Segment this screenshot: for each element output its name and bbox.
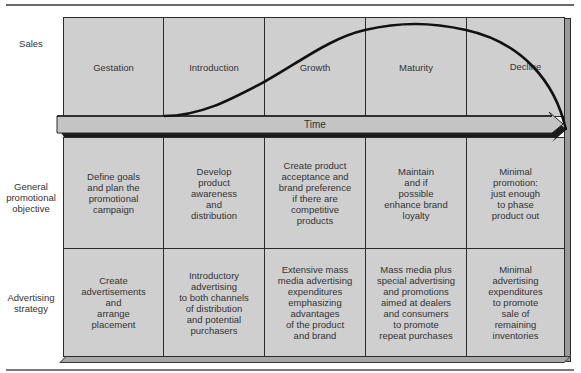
strategy-text: Mass media plus special advertising and … [377, 264, 455, 341]
strategy-cell-decline: Minimal advertising expenditures to prom… [466, 248, 565, 357]
sales-cell-growth: Growth [264, 17, 366, 117]
sales-cell-gestation: Gestation [63, 17, 164, 117]
sales-cell-introduction: Introduction [163, 17, 265, 117]
grid-3d-bottom [59, 356, 571, 363]
strategy-cell-gestation: Create advertisements and arrange placem… [63, 248, 164, 357]
strategy-text: Introductory advertising to both channel… [179, 270, 249, 336]
sales-cell-decline: Decline [466, 17, 565, 117]
objective-text: Maintain and if possible enhance brand l… [384, 166, 447, 221]
strategy-cell-growth: Extensive mass media advertising expendi… [264, 248, 366, 357]
objective-text: Minimal promotion: just enough to phase … [491, 166, 540, 221]
objective-text: Create product acceptance and brand pref… [279, 160, 351, 226]
objective-cell-introduction: Develop product awareness and distributi… [163, 137, 265, 249]
objective-cell-growth: Create product acceptance and brand pref… [264, 137, 366, 249]
strategy-cell-maturity: Mass media plus special advertising and … [365, 248, 467, 357]
stage-label: Growth [300, 62, 331, 73]
strategy-text: Minimal advertising expenditures to prom… [488, 264, 542, 341]
objective-text: Develop product awareness and distributi… [191, 166, 237, 221]
grid-3d-side [564, 18, 571, 362]
strategy-cell-introduction: Introductory advertising to both channel… [163, 248, 265, 357]
bottom-rule [6, 369, 574, 371]
stage-label: Introduction [189, 62, 239, 73]
sales-cell-maturity: Maturity [365, 17, 467, 117]
strategy-text: Create advertisements and arrange placem… [81, 275, 145, 330]
objective-cell-gestation: Define goals and plan the promotional ca… [63, 137, 164, 249]
objective-cell-maturity: Maintain and if possible enhance brand l… [365, 137, 467, 249]
stage-label: Gestation [93, 62, 134, 73]
row-label-sales: Sales [0, 38, 62, 49]
stage-label: Maturity [399, 62, 433, 73]
time-axis-label: Time [304, 119, 326, 130]
objective-text: Define goals and plan the promotional ca… [87, 171, 140, 215]
stage-label: Decline [510, 61, 542, 72]
row-label-strategy: Advertising strategy [0, 292, 62, 314]
objective-cell-decline: Minimal promotion: just enough to phase … [466, 137, 565, 249]
row-label-objective: General promotional objective [0, 181, 62, 214]
top-rule [6, 4, 574, 6]
strategy-text: Extensive mass media advertising expendi… [278, 264, 352, 341]
